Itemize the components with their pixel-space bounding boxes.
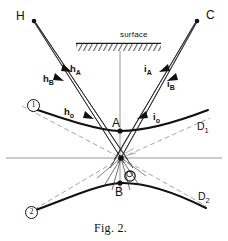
- ray-label-iA: iA: [144, 64, 152, 76]
- ray-label-hB: hB: [43, 74, 54, 86]
- ray-label-iB: iB: [167, 79, 175, 91]
- point-label-A: A: [112, 117, 120, 129]
- iA-sub: A: [147, 69, 152, 76]
- figure-caption: Fig. 2.: [94, 221, 127, 236]
- arrow-hB: [53, 73, 64, 81]
- d2-sub: 2: [206, 196, 210, 205]
- ray-label-io: io: [153, 112, 160, 124]
- hA-sub: A: [76, 69, 81, 76]
- point-label-D1: D1: [197, 121, 209, 135]
- asymptote-lower-right: [121, 158, 206, 206]
- ho-sub: o: [70, 112, 74, 119]
- iB-sub: B: [170, 84, 175, 91]
- point-label-B: B: [115, 186, 123, 198]
- point-label-H: H: [16, 10, 25, 22]
- surface-hatching: [76, 44, 161, 51]
- point-label-O: O: [126, 170, 133, 179]
- d2-base: D: [198, 190, 206, 202]
- arrow-iA: [159, 64, 170, 72]
- hB-sub: B: [49, 79, 54, 86]
- surface-label: surface: [120, 31, 148, 39]
- point-C-dot: [195, 19, 200, 24]
- point-label-D2: D2: [198, 191, 210, 205]
- fan-ray-5: [97, 158, 121, 178]
- ray-label-hA: hA: [70, 64, 81, 76]
- d1-sub: 1: [205, 126, 209, 135]
- io-sub: o: [156, 117, 160, 124]
- point-label-C: C: [206, 9, 215, 21]
- arrow-ho: [83, 111, 94, 119]
- point-O-dot: [118, 155, 124, 161]
- point-H-dot: [32, 19, 37, 24]
- branch-marker-2: 2: [25, 206, 38, 219]
- fan-ray-6: [121, 158, 146, 176]
- d1-base: D: [197, 120, 205, 132]
- ray-label-ho: ho: [64, 107, 74, 119]
- branch-marker-1: 1: [27, 99, 40, 112]
- figure-container: H C A B O D1 D2 surface hA hB ho iA iB i…: [0, 0, 228, 241]
